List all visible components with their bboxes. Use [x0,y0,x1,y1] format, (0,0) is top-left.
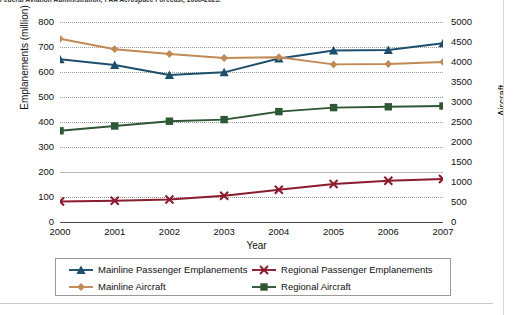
x-axis-tick: 2001 [91,226,139,237]
y-axis-right-tick: 4000 [451,57,491,67]
series-1 [60,39,443,79]
footer-divider [0,303,493,304]
legend-item-mainline-aircraft: Mainline Aircraft [56,278,251,295]
y-axis-right-tick: 2000 [451,137,491,147]
legend-label: Regional Passenger Emplanements [281,264,433,275]
x-axis-tick: 2005 [310,226,358,237]
legend-swatch-x-icon [251,264,277,276]
y-axis-right-tick: 500 [451,197,491,207]
legend-label: Mainline Passenger Emplanements [98,264,247,275]
x-axis-line [60,222,443,223]
chart-legend: Mainline Passenger Emplanements Regional… [55,258,451,296]
y-axis-left-tick: 400 [14,117,54,127]
y-axis-left-tick: 200 [14,167,54,177]
y-axis-left-tick: 100 [14,192,54,202]
x-axis-tick: 2000 [36,226,84,237]
y-axis-right-tick: 1000 [451,177,491,187]
y-axis-right-tick: 4500 [451,37,491,47]
legend-item-regional-passenger-emplanements: Regional Passenger Emplanements [251,261,450,278]
legend-label: Regional Aircraft [281,281,351,292]
x-axis-tick: 2002 [145,226,193,237]
y-axis-right-tick: 1500 [451,157,491,167]
y-axis-right-tick: 3500 [451,77,491,87]
legend-label: Mainline Aircraft [98,281,166,292]
x-axis-label: Year [0,240,513,251]
y-axis-right-tick: 5000 [451,17,491,27]
legend-swatch-diamond-icon [68,281,94,293]
legend-item-regional-aircraft: Regional Aircraft [251,278,450,295]
y-axis-left-label: Emplanements (million) [19,5,30,109]
y-axis-right-tick: 3000 [451,97,491,107]
x-axis-tick: 2007 [419,226,467,237]
y-axis-right-tick: 2500 [451,117,491,127]
chart-page: Federal Aviation Administration, FAA Aer… [0,0,513,315]
y-axis-left-tick: 300 [14,142,54,152]
source-note: Federal Aviation Administration, FAA Aer… [0,0,500,5]
series-2 [60,175,443,206]
x-axis-tick: 2003 [200,226,248,237]
page-right-margin [503,0,513,315]
legend-item-mainline-passenger-emplanements: Mainline Passenger Emplanements [56,261,251,278]
x-axis-tick: 2004 [255,226,303,237]
legend-swatch-square-icon [251,281,277,293]
chart-plot-area [60,22,443,222]
legend-swatch-triangle-icon [68,264,94,276]
series-4 [60,102,443,134]
x-axis-tick: 2006 [364,226,412,237]
